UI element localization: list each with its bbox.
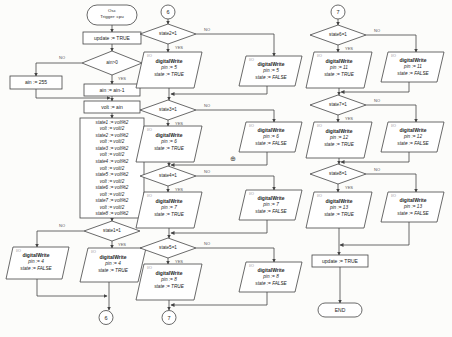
branch-label-no-ain: NO [52,56,72,60]
decision-state4: state4=1 [140,174,196,179]
branch-label-no-s1: NO [52,224,72,228]
io-state-value: state := FALSE [244,140,298,146]
branch-label-no-s8: NO [369,168,385,172]
process-bit-extract: state1 := volt%2 volt := volt/2 state2 :… [80,119,144,217]
bit-extract-line: state8 := volt%2 [80,211,144,218]
io-state-value: state := TRUE [142,71,196,77]
branch-label-yes-s4: YES [171,188,187,192]
start-terminal-line2: Trigger: cpu [87,14,137,19]
branch-label-no-s6: NO [369,29,385,33]
io-state-value: state := FALSE [244,208,298,214]
connector-right-top: 7 [331,9,345,15]
branch-label-yes-ain: YES [114,77,130,81]
io-pin13-true-tag: I/O [317,194,332,198]
branch-label-yes-s5: YES [171,260,187,264]
decision-state3: state3=1 [140,108,196,113]
line-cross-marker: ⊕ [227,155,239,162]
decision-state2: state2=1 [140,32,196,37]
process-update-bottom: update := TRUE [312,259,368,264]
io-state-value: state := TRUE [86,267,140,273]
io-state-value: state := FALSE [386,210,440,216]
io-pin6-true: digitalWrite pin := 6 state := TRUE [142,132,196,151]
branch-label-yes-s7: YES [341,117,357,121]
branch-label-yes-s1: YES [114,243,130,247]
io-pin5-true: digitalWrite pin := 5 state := TRUE [142,58,196,77]
io-pin11-false: digitalWrite pin := 11 state := FALSE [386,57,440,76]
process-update-top: update := TRUE [83,36,141,41]
decision-state6: state6=1 [310,33,366,38]
io-pin4-true-tag: I/O [91,250,106,254]
branch-label-no-s7: NO [369,99,385,103]
decision-state1: state1=1 [84,229,140,234]
io-pin7-false: digitalWrite pin := 7 state := FALSE [244,195,298,214]
decision-state8: state8=1 [310,172,366,177]
branch-label-no-s2: NO [199,28,215,32]
io-pin8-true: digitalWrite pin := 8 state := TRUE [142,270,196,289]
io-state-value: state := FALSE [244,74,298,80]
branch-label-yes-s6: YES [341,47,357,51]
io-state-value: state := FALSE [244,280,298,286]
io-pin8-true-tag: I/O [147,266,162,270]
io-pin7-true: digitalWrite pin := 7 state := TRUE [142,198,196,217]
io-state-value: state := FALSE [10,265,62,271]
decision-ain: ain>0 [82,61,142,66]
decision-state5: state5=1 [140,246,196,251]
io-pin5-false: digitalWrite pin := 5 state := FALSE [244,61,298,80]
connector-left-bottom: 6 [99,315,113,321]
branch-label-no-s4: NO [199,170,215,174]
io-pin13-false: digitalWrite pin := 13 state := FALSE [386,197,440,216]
io-pin11-true: digitalWrite pin := 11 state := TRUE [312,58,366,77]
io-pin12-false: digitalWrite pin := 12 state := FALSE [386,127,440,146]
io-pin8-false: digitalWrite pin := 8 state := FALSE [244,267,298,286]
io-pin5-true-tag: I/O [147,54,162,58]
connector-mid-bottom: 7 [162,315,176,321]
start-terminal-line1: Osc [87,8,137,13]
connector-mid-top: 6 [161,9,175,15]
io-state-value: state := TRUE [312,141,366,147]
io-state-value: state := TRUE [312,71,366,77]
io-pin4-true: digitalWrite pin := 4 state := TRUE [86,254,140,273]
io-state-value: state := FALSE [386,140,440,146]
end-terminal: END [318,308,362,313]
process-ain-dec: ain := ain-1 [84,88,140,93]
io-pin6-false: digitalWrite pin := 6 state := FALSE [244,127,298,146]
io-state-value: state := TRUE [142,211,196,217]
branch-label-no-s5: NO [199,242,215,246]
branch-label-yes-s2: YES [171,46,187,50]
io-state-value: state := TRUE [312,211,366,217]
io-pin11-true-tag: I/O [317,54,332,58]
branch-label-yes-s8: YES [341,186,357,190]
process-ain-reset: ain := 255 [10,80,62,85]
io-pin6-true-tag: I/O [147,128,162,132]
io-state-value: state := FALSE [386,70,440,76]
branch-label-yes-s3: YES [171,122,187,126]
io-pin4-false: digitalWrite pin := 4 state := FALSE [10,252,62,271]
process-volt-assign: volt := ain [84,105,140,110]
decision-state7: state7=1 [310,103,366,108]
io-state-value: state := TRUE [142,145,196,151]
io-pin12-true-tag: I/O [317,124,332,128]
io-pin13-true: digitalWrite pin := 13 state := TRUE [312,198,366,217]
io-pin12-true: digitalWrite pin := 12 state := TRUE [312,128,366,147]
flowchart-canvas: Osc Trigger: cpu update := TRUE ain>0 NO… [0,0,452,337]
branch-label-no-s3: NO [199,104,215,108]
io-state-value: state := TRUE [142,283,196,289]
io-pin7-true-tag: I/O [147,194,162,198]
